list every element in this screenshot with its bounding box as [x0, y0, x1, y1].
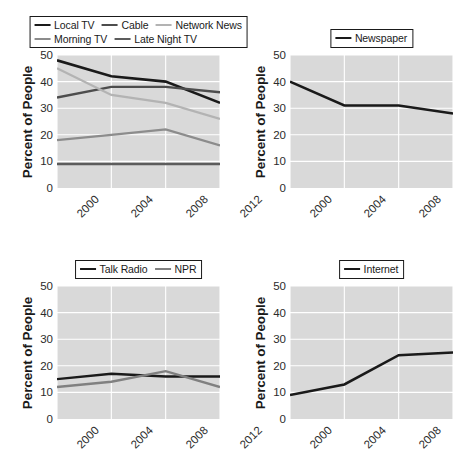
y-tick-label: 30 [40, 333, 53, 345]
legend-line-icon [114, 38, 130, 40]
legend-television: Local TVCableNetwork NewsMorning TVLate … [29, 16, 248, 48]
x-tick-label: 2008 [416, 193, 443, 220]
x-tick-text: 2008 [183, 193, 210, 220]
y-tick-label: 40 [40, 307, 53, 319]
y-tick-label: 50 [40, 280, 53, 292]
chart-canvas [57, 286, 220, 419]
y-tick-label: 0 [280, 182, 286, 194]
y-axis-label: Percent of People [20, 47, 35, 197]
legend-row: Morning TVLate Night TV [34, 34, 242, 45]
y-tick-label: 40 [40, 76, 53, 88]
legend-radio: Talk RadioNPR [75, 260, 203, 279]
y-tick-label: 0 [47, 182, 53, 194]
x-tick-label: 2008 [416, 424, 443, 451]
legend-item-npr[interactable]: NPR [155, 264, 197, 275]
plot-area-television: 010203040502000200420082012 [57, 55, 220, 188]
y-tick-label: 10 [273, 386, 286, 398]
x-tick-text: 2000 [74, 193, 101, 220]
plot-area-newspaper: 010203040502000200420082012 [290, 55, 453, 188]
legend-line-icon [34, 24, 50, 26]
legend-item-newspaper[interactable]: Newspaper [335, 33, 407, 44]
y-tick-label: 30 [273, 333, 286, 345]
panel-newspaper: NewspaperPercent of People01020304050200… [233, 0, 466, 230]
legend-line-icon [335, 37, 351, 39]
y-axis-label: Percent of People [20, 278, 35, 428]
legend-item-late-night-tv[interactable]: Late Night TV [114, 34, 197, 45]
x-tick-text: 2008 [183, 424, 210, 451]
legend-label: Talk Radio [100, 264, 148, 275]
x-tick-text: 2004 [362, 424, 389, 451]
x-tick-label: 2004 [362, 424, 389, 451]
legend-newspaper: Newspaper [330, 29, 413, 48]
legend-line-icon [344, 268, 360, 270]
y-tick-label: 20 [40, 129, 53, 141]
y-tick-label: 50 [273, 280, 286, 292]
y-tick-label: 40 [273, 307, 286, 319]
y-tick-label: 20 [273, 129, 286, 141]
y-tick-label: 20 [40, 360, 53, 372]
y-tick-label: 20 [273, 360, 286, 372]
x-tick-text: 2004 [129, 424, 156, 451]
x-tick-text: 2008 [416, 424, 443, 451]
legend-row: Local TVCableNetwork News [34, 20, 242, 31]
x-tick-label: 2000 [74, 424, 101, 451]
legend-item-cable[interactable]: Cable [102, 20, 149, 31]
y-tick-label: 10 [273, 155, 286, 167]
x-tick-label: 2008 [183, 424, 210, 451]
x-tick-label: 2000 [307, 424, 334, 451]
x-tick-text: 2000 [307, 424, 334, 451]
legend-label: Late Night TV [134, 34, 197, 45]
y-axis-label: Percent of People [253, 47, 268, 197]
legend-label: Newspaper [355, 33, 407, 44]
x-tick-label: 2004 [362, 193, 389, 220]
legend-label: Morning TV [54, 34, 107, 45]
x-tick-label: 2008 [183, 193, 210, 220]
y-tick-label: 40 [273, 76, 286, 88]
y-tick-label: 50 [273, 49, 286, 61]
panel-television: Local TVCableNetwork NewsMorning TVLate … [0, 0, 233, 230]
plot-area-radio: 010203040502000200420082012 [57, 286, 220, 419]
plot-area-internet: 010203040502000200420082012 [290, 286, 453, 419]
series-line-npr [57, 371, 220, 387]
x-tick-text: 2004 [362, 193, 389, 220]
y-tick-label: 10 [40, 155, 53, 167]
legend-item-morning-tv[interactable]: Morning TV [34, 34, 107, 45]
y-tick-label: 0 [280, 413, 286, 425]
legend-label: Cable [122, 20, 149, 31]
panel-internet: InternetPercent of People010203040502000… [233, 231, 466, 461]
x-tick-text: 2000 [74, 424, 101, 451]
x-tick-text: 2004 [129, 193, 156, 220]
y-tick-label: 30 [40, 102, 53, 114]
legend-item-internet[interactable]: Internet [344, 264, 399, 275]
y-tick-label: 50 [40, 49, 53, 61]
legend-item-network-news[interactable]: Network News [155, 20, 241, 31]
legend-line-icon [80, 268, 96, 270]
y-tick-label: 0 [47, 413, 53, 425]
x-tick-label: 2000 [74, 193, 101, 220]
figure: Local TVCableNetwork NewsMorning TVLate … [0, 0, 466, 461]
x-tick-label: 2000 [307, 193, 334, 220]
legend-internet: Internet [339, 260, 405, 279]
y-axis-label: Percent of People [253, 278, 268, 428]
y-tick-label: 10 [40, 386, 53, 398]
legend-label: Local TV [54, 20, 94, 31]
x-tick-label: 2004 [129, 424, 156, 451]
legend-item-talk-radio[interactable]: Talk Radio [80, 264, 148, 275]
legend-label: NPR [175, 264, 197, 275]
legend-line-icon [34, 38, 50, 40]
chart-canvas [57, 55, 220, 188]
legend-item-local-tv[interactable]: Local TV [34, 20, 94, 31]
chart-canvas [290, 286, 453, 419]
legend-label: Internet [364, 264, 399, 275]
panel-radio: Talk RadioNPRPercent of People0102030405… [0, 231, 233, 461]
y-tick-label: 30 [273, 102, 286, 114]
legend-row: Talk RadioNPR [80, 264, 197, 275]
series-line-morning-tv [57, 129, 220, 145]
legend-line-icon [155, 24, 171, 26]
chart-canvas [290, 55, 453, 188]
legend-line-icon [102, 24, 118, 26]
series-line-internet [290, 353, 453, 396]
legend-row: Internet [344, 264, 399, 275]
x-tick-text: 2000 [307, 193, 334, 220]
legend-row: Newspaper [335, 33, 407, 44]
